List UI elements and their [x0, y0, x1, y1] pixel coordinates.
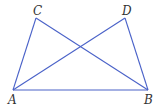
- segment-cb: [36, 18, 148, 90]
- label-b: B: [143, 93, 153, 107]
- segment-ac: [13, 18, 36, 90]
- segment-db: [125, 18, 148, 90]
- label-a: A: [7, 93, 17, 107]
- label-d: D: [121, 4, 132, 18]
- segment-ad: [13, 18, 125, 90]
- label-c: C: [33, 4, 42, 18]
- geometry-diagram: C D A B: [0, 0, 160, 110]
